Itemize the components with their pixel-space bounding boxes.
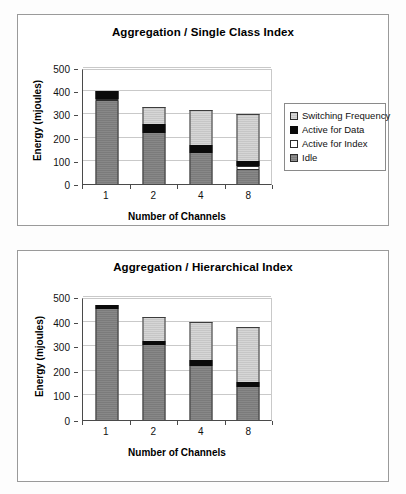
bar-slot (130, 70, 177, 184)
legend-swatch-icon (290, 126, 298, 134)
legend-label: Active for Data (302, 125, 364, 135)
legend-item[interactable]: Active for Data (290, 123, 379, 137)
x-axis-tick-labels: 1248 (82, 426, 272, 437)
y-axis-tick-labels: 0100200300400500 (44, 298, 78, 421)
legend-label: Idle (302, 153, 317, 163)
x-tick-label: 1 (82, 426, 130, 437)
x-tick-label: 1 (82, 190, 130, 201)
gridline (83, 67, 271, 68)
bar-segment-idle (189, 366, 212, 420)
legend-item[interactable]: Idle (290, 151, 379, 165)
stacked-bar[interactable] (189, 322, 212, 420)
bar-segment-idle (236, 387, 259, 420)
x-axis-tick-labels: 1248 (82, 190, 272, 201)
bar-segment-switching-frequency (142, 107, 165, 124)
chart-title: Aggregation / Hierarchical Index (18, 261, 388, 273)
y-axis-title: Energy (mjoules) (32, 66, 43, 176)
chart-title: Aggregation / Single Class Index (18, 26, 388, 38)
x-tick-mark (82, 421, 83, 425)
y-tick-mark (74, 69, 78, 70)
legend-label: Active for Index (302, 139, 367, 149)
y-tick-label: 500 (53, 64, 70, 75)
x-tick-mark (177, 421, 178, 425)
legend-item[interactable]: Active for Index (290, 137, 379, 151)
y-tick-label: 200 (53, 133, 70, 144)
bar-segment-idle (95, 101, 118, 184)
x-axis-title: Number of Channels (82, 211, 272, 222)
x-tick-label: 8 (225, 426, 273, 437)
x-tick-mark (82, 185, 83, 189)
x-tick-label: 2 (130, 426, 178, 437)
stacked-bar[interactable] (142, 107, 165, 184)
x-tick-mark (130, 185, 131, 189)
bar-segment-switching-frequency (236, 327, 259, 382)
y-tick-label: 400 (53, 317, 70, 328)
y-tick-mark (74, 298, 78, 299)
stacked-bar[interactable] (236, 114, 259, 184)
y-tick-label: 300 (53, 110, 70, 121)
y-tick-mark (74, 92, 78, 93)
y-tick-label: 500 (53, 293, 70, 304)
y-tick-label: 300 (53, 342, 70, 353)
bar-slot (130, 299, 177, 420)
y-axis-tick-labels: 0100200300400500 (44, 69, 78, 185)
x-tick-label: 8 (225, 190, 273, 201)
y-tick-mark (74, 421, 78, 422)
bar-slot (224, 70, 271, 184)
y-tick-label: 0 (64, 416, 70, 427)
y-tick-mark (74, 372, 78, 373)
bar-segment-idle (236, 170, 259, 184)
y-axis-title: Energy (mjoules) (34, 299, 45, 415)
bar-segment-idle (189, 153, 212, 184)
chart-hierarchical-index: Aggregation / Hierarchical Index Energy … (17, 250, 389, 482)
x-axis-title: Number of Channels (82, 447, 272, 458)
x-tick-mark (130, 421, 131, 425)
y-tick-label: 100 (53, 391, 70, 402)
x-tick-label: 4 (177, 190, 225, 201)
y-tick-mark (74, 115, 78, 116)
y-tick-label: 400 (53, 87, 70, 98)
x-tick-mark (272, 185, 273, 189)
y-tick-label: 200 (53, 366, 70, 377)
stacked-bar[interactable] (236, 327, 259, 420)
y-tick-label: 100 (53, 156, 70, 167)
bar-segment-idle (95, 309, 118, 420)
bar-slot (177, 299, 224, 420)
y-tick-mark (74, 347, 78, 348)
bar-segment-active-for-data (189, 145, 212, 152)
bar-segment-idle (142, 345, 165, 420)
x-tick-mark (272, 421, 273, 425)
x-tick-mark (225, 421, 226, 425)
legend-swatch-icon (290, 154, 298, 162)
bar-group (83, 70, 271, 184)
stacked-bar[interactable] (95, 91, 118, 184)
legend-label: Switching Frequency (302, 111, 390, 121)
bar-slot (83, 299, 130, 420)
y-tick-mark (74, 396, 78, 397)
bar-segment-active-for-data (142, 124, 165, 132)
page-canvas: Aggregation / Single Class Index Energy … (0, 0, 406, 494)
stacked-bar[interactable] (189, 110, 212, 184)
y-tick-mark (74, 185, 78, 186)
bar-group (83, 299, 271, 420)
bar-segment-switching-frequency (189, 110, 212, 145)
bar-segment-idle (142, 133, 165, 185)
bar-segment-active-for-data (95, 91, 118, 98)
legend: Switching FrequencyActive for DataActive… (284, 103, 386, 171)
y-tick-mark (74, 162, 78, 163)
chart-single-class-index: Aggregation / Single Class Index Energy … (17, 14, 389, 226)
x-tick-mark (177, 185, 178, 189)
gridline (83, 296, 271, 297)
x-tick-label: 4 (177, 426, 225, 437)
plot-area (82, 298, 272, 421)
legend-item[interactable]: Switching Frequency (290, 109, 379, 123)
legend-swatch-icon (290, 112, 298, 120)
bar-segment-switching-frequency (142, 317, 165, 341)
bar-segment-switching-frequency (189, 322, 212, 360)
plot-area (82, 69, 272, 185)
bar-slot (177, 70, 224, 184)
bar-segment-switching-frequency (236, 114, 259, 161)
legend-swatch-icon (290, 140, 298, 148)
stacked-bar[interactable] (95, 305, 118, 420)
stacked-bar[interactable] (142, 317, 165, 420)
